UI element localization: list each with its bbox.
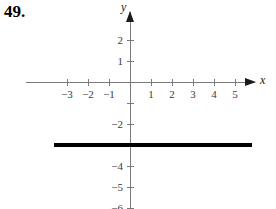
x-axis-line xyxy=(26,82,255,83)
x-tick-label: 4 xyxy=(204,88,224,100)
y-tick-label: −5 xyxy=(101,181,123,193)
x-tick-label: −3 xyxy=(57,88,77,100)
graph-line-y-equals-negative-3 xyxy=(54,143,252,147)
x-tick-label: 2 xyxy=(162,88,182,100)
graph-figure: 49. x y −3 −2 −1 1 2 3 4 5 xyxy=(0,0,276,209)
y-tick-mark xyxy=(127,166,134,167)
x-tick-mark xyxy=(151,79,152,86)
x-tick-label: 3 xyxy=(183,88,203,100)
y-tick-mark xyxy=(127,103,134,104)
y-tick-label: 1 xyxy=(101,55,123,67)
coordinate-plane: x y −3 −2 −1 1 2 3 4 5 2 1 −2 −4 −5 xyxy=(0,0,276,209)
y-axis-line xyxy=(130,12,131,209)
y-axis-label: y xyxy=(121,0,126,15)
x-tick-mark xyxy=(172,79,173,86)
y-tick-mark xyxy=(127,124,134,125)
x-tick-label: −1 xyxy=(99,88,119,100)
x-tick-mark xyxy=(109,79,110,86)
y-tick-label: −4 xyxy=(101,160,123,172)
y-tick-mark xyxy=(127,187,134,188)
x-tick-mark xyxy=(214,79,215,86)
x-tick-mark xyxy=(235,79,236,86)
y-tick-mark xyxy=(127,40,134,41)
y-tick-mark xyxy=(127,61,134,62)
x-tick-mark xyxy=(67,79,68,86)
x-tick-mark xyxy=(88,79,89,86)
y-tick-label: −6 xyxy=(101,202,123,209)
x-tick-label: 1 xyxy=(141,88,161,100)
y-tick-label: 2 xyxy=(101,34,123,46)
x-axis-arrow-icon xyxy=(245,78,256,86)
x-tick-label: 5 xyxy=(225,88,245,100)
x-tick-mark xyxy=(193,79,194,86)
y-axis-arrow-icon xyxy=(126,11,134,22)
x-tick-label: −2 xyxy=(78,88,98,100)
y-tick-mark xyxy=(127,208,134,209)
x-axis-label: x xyxy=(260,73,265,88)
y-tick-label: −2 xyxy=(101,118,123,130)
